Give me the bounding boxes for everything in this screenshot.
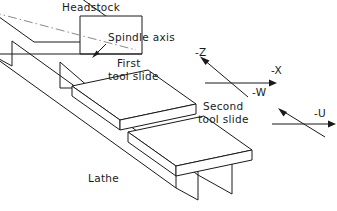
axis-z-w-line (203, 59, 248, 97)
label-axis-u: -U (314, 107, 326, 119)
label-axis-z: -Z (195, 46, 207, 58)
axis-u-arrowhead (328, 121, 336, 128)
label-axis-x: -X (271, 64, 282, 76)
axis-x-arrowhead (269, 80, 277, 87)
label-lathe: Lathe (88, 172, 119, 184)
label-spindle-axis: Spindle axis (108, 31, 175, 43)
label-first-tool-slide-line1: First (117, 57, 141, 69)
label-second-tool-slide-line1: Second (203, 100, 243, 112)
bed-left-face-edge (0, 54, 12, 66)
lathe-diagram: Headstock Spindle axis First tool slide … (0, 0, 337, 211)
label-first-tool-slide-line2: tool slide (108, 70, 159, 82)
label-second-tool-slide-line2: tool slide (198, 113, 249, 125)
axis-group-lower (272, 108, 336, 137)
label-axis-w: -W (252, 86, 267, 98)
diagram-canvas: Headstock Spindle axis First tool slide … (0, 0, 337, 211)
label-headstock: Headstock (62, 1, 121, 13)
bed-right-bottom-edge (176, 188, 198, 200)
axis-lower-diagonal-arrowhead (278, 108, 287, 117)
